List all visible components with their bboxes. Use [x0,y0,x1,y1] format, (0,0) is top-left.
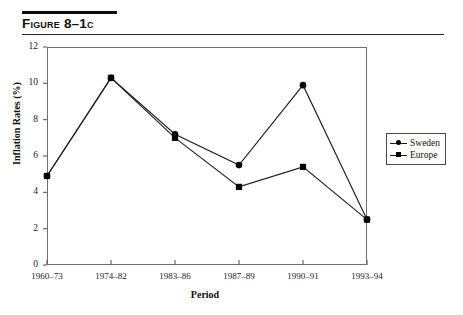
figure-container: Figure 8–1c 024681012 1960–731974–821983… [0,0,463,315]
axis-ticks [43,47,367,265]
x-tick-label: 1983–86 [140,271,210,281]
legend-item-sweden[interactable]: Sweden [390,137,440,149]
legend-label-sweden: Sweden [410,138,440,149]
x-axis-title: Period [0,289,410,300]
chart-legend: Sweden Europe [386,133,446,165]
circle-marker-icon [390,138,407,148]
square-marker-icon [390,150,407,160]
y-tick-label: 0 [14,259,38,269]
x-tick-label: 1990–91 [268,271,338,281]
data-series-layer [44,75,371,223]
x-tick-label: 1993–94 [332,271,402,281]
x-tick-label: 1974–82 [76,271,146,281]
legend-label-europe: Europe [410,150,437,161]
x-tick-label: 1960–73 [12,271,82,281]
x-tick-label: 1987–89 [204,271,274,281]
y-tick-label: 4 [14,186,38,196]
y-axis-title: Inflation Rates (%) [11,64,22,184]
legend-item-europe[interactable]: Europe [390,149,440,161]
y-tick-label: 2 [14,223,38,233]
y-tick-label: 12 [14,41,38,51]
